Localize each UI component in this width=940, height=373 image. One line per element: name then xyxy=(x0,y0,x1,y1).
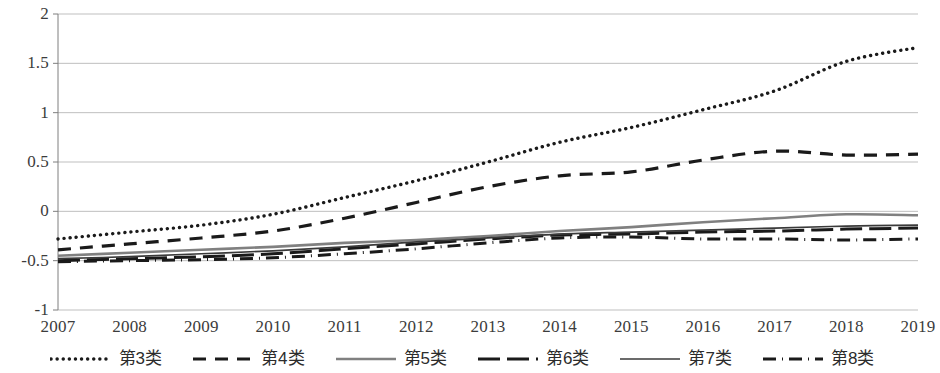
x-axis-tick-label: 2007 xyxy=(24,318,92,335)
legend-swatch-long-dash xyxy=(477,353,539,365)
x-axis-tick-label: 2010 xyxy=(239,318,307,335)
legend-item-第5类[interactable]: 第5类 xyxy=(335,350,447,368)
legend-item-label: 第3类 xyxy=(119,350,162,368)
series-line-第6类 xyxy=(58,228,918,261)
legend-swatch-solid xyxy=(335,353,397,365)
legend-item-label: 第5类 xyxy=(404,350,447,368)
x-axis-tick-label: 2015 xyxy=(597,318,665,335)
x-axis-tick-label: 2012 xyxy=(382,318,450,335)
series-line-第3类 xyxy=(58,48,918,239)
axis-line-group xyxy=(53,14,58,310)
legend-swatch-dash-dot xyxy=(762,353,824,365)
x-axis-tick-label: 2008 xyxy=(96,318,164,335)
y-axis-tick-label: -0.5 xyxy=(21,252,49,269)
legend-item-label: 第4类 xyxy=(261,350,304,368)
y-axis-tick-label: 1 xyxy=(40,104,49,121)
legend-item-第3类[interactable]: 第3类 xyxy=(50,350,162,368)
x-axis-tick-label: 2018 xyxy=(812,318,880,335)
series-line-第5类 xyxy=(58,214,918,256)
x-axis-tick-label: 2016 xyxy=(669,318,737,335)
chart-legend: 第3类第4类第5类第6类第7类第8类 xyxy=(0,344,924,373)
x-axis-tick-label: 2013 xyxy=(454,318,522,335)
x-axis-tick-label: 2009 xyxy=(167,318,235,335)
x-axis-tick-label: 2011 xyxy=(311,318,379,335)
legend-item-第8类[interactable]: 第8类 xyxy=(762,350,874,368)
legend-item-第7类[interactable]: 第7类 xyxy=(619,350,731,368)
legend-item-label: 第7类 xyxy=(688,350,731,368)
x-axis-tick-label: 2017 xyxy=(741,318,809,335)
legend-item-label: 第8类 xyxy=(831,350,874,368)
legend-item-label: 第6类 xyxy=(546,350,589,368)
legend-swatch-solid-thin xyxy=(619,353,681,365)
legend-item-第4类[interactable]: 第4类 xyxy=(192,350,304,368)
x-axis-tick-label: 2019 xyxy=(884,318,940,335)
y-axis-tick-label: 1.5 xyxy=(27,54,49,71)
legend-item-第6类[interactable]: 第6类 xyxy=(477,350,589,368)
plot-area xyxy=(0,0,924,340)
legend-swatch-dashed xyxy=(192,353,254,365)
y-axis-tick-label: -1 xyxy=(34,301,49,318)
y-axis-tick-label: 2 xyxy=(40,5,49,22)
x-axis-tick-label: 2014 xyxy=(526,318,594,335)
y-axis-tick-label: 0 xyxy=(40,202,49,219)
series-lines xyxy=(58,48,918,262)
y-axis-tick-label: 0.5 xyxy=(27,153,49,170)
legend-swatch-dotted xyxy=(50,353,112,365)
